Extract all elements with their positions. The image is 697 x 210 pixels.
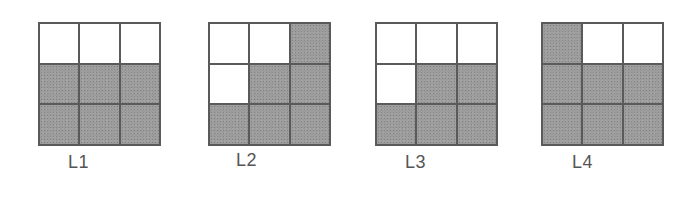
shaded-cell-r1-c2 [291,65,329,104]
panel-l2 [208,22,331,146]
empty-cell-r0-c1 [80,24,118,63]
shaded-cell-r1-c1 [250,65,288,104]
shaded-cell-r2-c0 [40,105,78,144]
shaded-cell-r2-c1 [417,105,455,144]
label-l4: L4 [572,152,593,173]
shaded-cell-r2-c0 [210,105,248,144]
empty-cell-r0-c0 [40,24,78,63]
panel-l4 [541,22,664,146]
panel-l1 [38,22,161,146]
shaded-cell-r2-c2 [291,105,329,144]
shaded-cell-r2-c1 [583,105,621,144]
shaded-cell-r1-c2 [458,65,496,104]
empty-cell-r1-c0 [210,65,248,104]
shaded-cell-r1-c1 [80,65,118,104]
shaded-cell-r0-c2 [291,24,329,63]
shaded-cell-r1-c0 [543,65,581,104]
label-l3: L3 [405,152,426,173]
empty-cell-r0-c1 [583,24,621,63]
shaded-cell-r2-c2 [121,105,159,144]
empty-cell-r1-c0 [377,65,415,104]
empty-cell-r0-c2 [458,24,496,63]
empty-cell-r0-c0 [377,24,415,63]
label-l2: L2 [236,150,257,171]
empty-cell-r0-c1 [250,24,288,63]
panel-l3 [375,22,498,146]
empty-cell-r0-c0 [210,24,248,63]
shaded-cell-r1-c2 [121,65,159,104]
shaded-cell-r2-c0 [377,105,415,144]
shaded-cell-r2-c2 [624,105,662,144]
shaded-cell-r0-c0 [543,24,581,63]
grid-l1 [38,22,161,146]
shaded-cell-r2-c0 [543,105,581,144]
shaded-cell-r2-c1 [250,105,288,144]
shaded-cell-r2-c2 [458,105,496,144]
empty-cell-r0-c1 [417,24,455,63]
grid-l3 [375,22,498,146]
label-l1: L1 [68,152,89,173]
shaded-cell-r1-c1 [583,65,621,104]
grid-l2 [208,22,331,146]
empty-cell-r0-c2 [624,24,662,63]
shaded-cell-r1-c0 [40,65,78,104]
shaded-cell-r2-c1 [80,105,118,144]
empty-cell-r0-c2 [121,24,159,63]
shaded-cell-r1-c1 [417,65,455,104]
grid-l4 [541,22,664,146]
shaded-cell-r1-c2 [624,65,662,104]
